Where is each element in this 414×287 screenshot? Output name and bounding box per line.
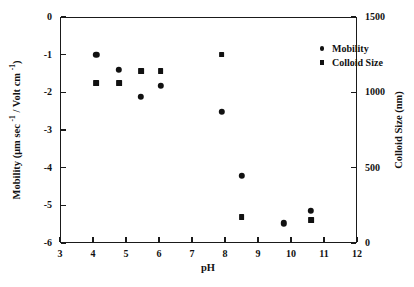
y-axis-left-tick-label: 0 — [47, 12, 52, 22]
y-axis-right-tick — [351, 167, 356, 168]
y-axis-left-tick — [61, 129, 66, 130]
x-axis-tick — [257, 237, 258, 242]
data-point-mobility — [157, 83, 163, 89]
data-point-mobility — [238, 172, 244, 178]
legend-marker-glyph — [320, 46, 325, 51]
y-axis-left-title-part-b: / Volt cm — [11, 70, 22, 115]
x-axis-line — [60, 242, 357, 243]
data-point-colloid-size — [93, 80, 99, 86]
y-axis-left-tick — [61, 167, 66, 168]
plot-area: MobilityColloid Size — [60, 17, 357, 243]
y-axis-right-tick-label: 500 — [365, 163, 380, 173]
x-axis-tick — [356, 237, 357, 242]
x-axis-tick — [92, 237, 93, 242]
y-axis-left-tick-label: -3 — [44, 125, 52, 135]
data-point-mobility — [138, 94, 144, 100]
y-axis-left-title-sup2: -1 — [8, 64, 17, 70]
legend-marker-glyph — [320, 60, 324, 64]
y-axis-right-tick — [351, 242, 356, 243]
x-axis-tick-label: 9 — [256, 249, 261, 259]
data-point-mobility — [93, 51, 99, 57]
data-point-mobility — [218, 109, 224, 115]
legend-item-colloid-size: Colloid Size — [318, 57, 383, 68]
x-axis-tick — [290, 237, 291, 242]
x-axis-tick-label: 12 — [352, 249, 362, 259]
data-point-colloid-size — [138, 68, 144, 74]
legend-item-mobility: Mobility — [318, 43, 383, 54]
x-axis-tick — [323, 237, 324, 242]
y-axis-right-tick — [351, 92, 356, 93]
y-axis-left-title-sup1: -1 — [8, 115, 17, 121]
y-axis-left-tick — [61, 54, 66, 55]
legend-item-label: Colloid Size — [332, 58, 383, 68]
legend-circle-icon — [318, 46, 326, 51]
legend-item-label: Mobility — [332, 44, 369, 54]
y-axis-left-tick-label: -1 — [44, 50, 52, 60]
data-point-colloid-size — [239, 214, 245, 220]
x-axis-tick-label: 7 — [190, 249, 195, 259]
y-axis-right-tick-label: 0 — [365, 238, 370, 248]
x-axis-tick-label: 6 — [157, 249, 162, 259]
y-axis-left-tick — [61, 242, 66, 243]
y-axis-right-tick-label: 1000 — [365, 87, 385, 97]
data-point-mobility — [308, 207, 314, 213]
y-axis-right-tick-label: 1500 — [365, 12, 385, 22]
y-axis-right-tick — [351, 16, 356, 17]
y-axis-left-tick-label: -4 — [44, 163, 52, 173]
x-axis-tick-label: 4 — [91, 249, 96, 259]
y-axis-left-title-part-c: ) — [11, 61, 22, 65]
y-axis-left-tick-label: -6 — [44, 238, 52, 248]
y-axis-left-tick — [61, 16, 66, 17]
plot-top-border — [60, 17, 357, 18]
x-axis-tick — [59, 237, 60, 242]
x-axis-tick-label: 8 — [223, 249, 228, 259]
x-axis-tick-label: 3 — [58, 249, 63, 259]
data-point-mobility — [116, 67, 122, 73]
chart-legend: MobilityColloid Size — [318, 43, 383, 68]
data-point-colloid-size — [158, 68, 164, 74]
legend-square-icon — [318, 60, 326, 64]
y-axis-left-tick — [61, 205, 66, 206]
data-point-colloid-size — [308, 217, 314, 223]
y-axis-right-title: Colloid Size (nm) — [394, 91, 405, 169]
y-axis-left-tick — [61, 92, 66, 93]
x-axis-tick — [191, 237, 192, 242]
x-axis-tick — [125, 237, 126, 242]
x-axis-tick — [224, 237, 225, 242]
y-axis-left-tick-label: -2 — [44, 87, 52, 97]
x-axis-title: pH — [201, 263, 215, 274]
x-axis-tick-label: 11 — [319, 249, 328, 259]
x-axis-tick-label: 10 — [286, 249, 296, 259]
data-point-colloid-size — [116, 80, 122, 86]
y-axis-left-title-part-a: Mobility (μm sec — [11, 121, 22, 199]
x-axis-tick-label: 5 — [124, 249, 129, 259]
x-axis-tick — [158, 237, 159, 242]
y-axis-left-tick-label: -5 — [44, 200, 52, 210]
chart-figure: Mobility (μm sec -1 / Volt cm -1) Colloi… — [0, 0, 414, 287]
data-point-mobility — [281, 220, 287, 226]
data-point-colloid-size — [219, 52, 225, 58]
y-axis-left-title: Mobility (μm sec -1 / Volt cm -1) — [12, 61, 23, 200]
